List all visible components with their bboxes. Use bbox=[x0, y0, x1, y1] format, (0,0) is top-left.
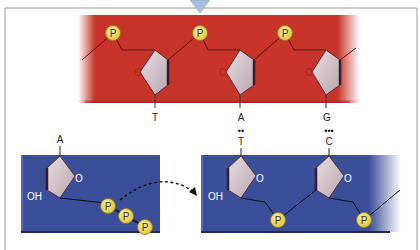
phosphate: P bbox=[119, 209, 134, 224]
new-strand: •• T ••• C O OH O P P bbox=[201, 126, 401, 232]
svg-text:O: O bbox=[256, 173, 264, 184]
phosphate: P bbox=[106, 26, 121, 41]
base-label: ••• bbox=[324, 126, 333, 136]
svg-text:P: P bbox=[142, 222, 149, 233]
svg-text:O: O bbox=[75, 173, 83, 184]
svg-text:O: O bbox=[219, 67, 227, 78]
phosphate: P bbox=[101, 199, 116, 214]
incoming-nucleotide: A O OH P P P bbox=[21, 134, 160, 235]
base-label: C bbox=[325, 136, 332, 147]
svg-text:O: O bbox=[134, 67, 142, 78]
svg-text:P: P bbox=[105, 201, 112, 212]
base-label: A bbox=[238, 112, 245, 123]
svg-text:A: A bbox=[57, 134, 64, 145]
svg-text:P: P bbox=[282, 28, 289, 39]
svg-text:O: O bbox=[344, 173, 352, 184]
svg-text:P: P bbox=[123, 211, 130, 222]
down-arrow-icon bbox=[190, 0, 210, 13]
svg-text:O: O bbox=[305, 67, 313, 78]
base-label: G bbox=[323, 112, 331, 123]
dna-replication-diagram: O O O P P P T A G bbox=[0, 0, 420, 250]
svg-text:P: P bbox=[110, 28, 117, 39]
phosphate: P bbox=[278, 26, 293, 41]
base-label: T bbox=[238, 136, 244, 147]
svg-text:OH: OH bbox=[27, 191, 42, 202]
svg-text:P: P bbox=[197, 28, 204, 39]
svg-text:P: P bbox=[275, 215, 282, 226]
phosphate: P bbox=[138, 220, 153, 235]
base-label: T bbox=[152, 112, 158, 123]
phosphate: P bbox=[271, 213, 286, 228]
phosphate: P bbox=[193, 26, 208, 41]
base-label: •• bbox=[238, 126, 244, 136]
svg-text:OH: OH bbox=[208, 191, 223, 202]
svg-text:P: P bbox=[361, 215, 368, 226]
phosphate: P bbox=[357, 213, 372, 228]
template-strand: O O O P P P T A G bbox=[78, 15, 360, 123]
